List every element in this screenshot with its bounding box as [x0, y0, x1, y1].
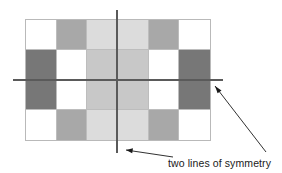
grid-cell-r4-c1 — [26, 110, 57, 140]
grid-cell-r1-c1 — [26, 20, 57, 50]
grid-cell-r1-c6 — [179, 20, 210, 50]
grid-cell-r1-c4 — [118, 20, 149, 50]
grid-cell-r2-c5 — [149, 50, 180, 80]
arrow-to-horizontal-line — [215, 86, 266, 152]
grid-cell-r3-c3 — [87, 80, 118, 110]
grid-cell-r3-c1 — [26, 80, 57, 110]
caption-two-lines-of-symmetry: two lines of symmetry — [168, 157, 271, 169]
grid-cell-r4-c3 — [87, 110, 118, 140]
grid-cell-r4-c2 — [57, 110, 88, 140]
grid-cell-r4-c4 — [118, 110, 149, 140]
grid-cell-r3-c6 — [179, 80, 210, 110]
grid-cell-r1-c5 — [149, 20, 180, 50]
grid-cell-r1-c3 — [87, 20, 118, 50]
grid-cell-r4-c5 — [149, 110, 180, 140]
grid-cell-r2-c1 — [26, 50, 57, 80]
grid-cell-r1-c2 — [57, 20, 88, 50]
symmetry-figure: two lines of symmetry — [0, 0, 282, 173]
grid-cell-r2-c4 — [118, 50, 149, 80]
grid-cell-r2-c6 — [179, 50, 210, 80]
grid-cell-r3-c2 — [57, 80, 88, 110]
grid-cell-r3-c4 — [118, 80, 149, 110]
grid-cell-r2-c3 — [87, 50, 118, 80]
horizontal-line-of-symmetry — [13, 79, 223, 81]
vertical-line-of-symmetry — [116, 10, 118, 153]
arrow-to-vertical-line — [126, 148, 173, 157]
grid-cell-r2-c2 — [57, 50, 88, 80]
grid-cell-r3-c5 — [149, 80, 180, 110]
grid-cell-r4-c6 — [179, 110, 210, 140]
